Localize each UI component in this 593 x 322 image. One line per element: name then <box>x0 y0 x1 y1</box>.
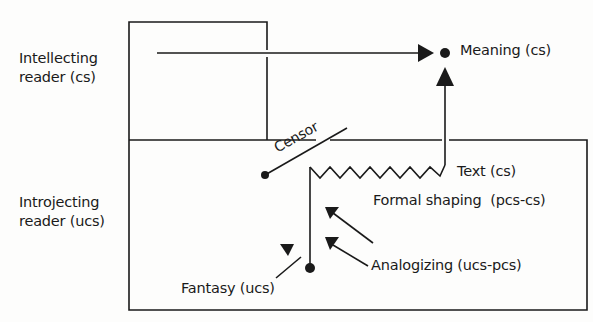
formal-shaping-pointer <box>333 213 373 243</box>
text-label: Text (cs) <box>457 162 516 181</box>
meaning-label: Meaning (cs) <box>460 41 551 60</box>
fantasy-arrowhead <box>280 244 294 256</box>
fantasy-pointer <box>276 257 301 278</box>
text-zigzag <box>310 165 445 178</box>
analogizing-label: Analogizing (ucs-pcs) <box>371 256 522 275</box>
fantasy-dot <box>305 263 315 273</box>
meaning-up-arrowhead <box>436 67 454 86</box>
meaning-right-arrowhead <box>418 44 434 62</box>
formal-shaping-label: Formal shaping (pcs-cs) <box>373 191 546 210</box>
analogizing-pointer <box>333 245 368 266</box>
meaning-dot <box>440 48 450 58</box>
introjecting-reader-label: Introjecting reader (ucs) <box>19 193 105 231</box>
formal-shaping-arrowhead <box>325 207 339 219</box>
intellecting-reader-label: Intellecting reader (cs) <box>19 49 98 87</box>
censor-dot <box>261 171 269 179</box>
intellecting-box <box>129 22 267 140</box>
fantasy-label: Fantasy (ucs) <box>181 279 275 298</box>
